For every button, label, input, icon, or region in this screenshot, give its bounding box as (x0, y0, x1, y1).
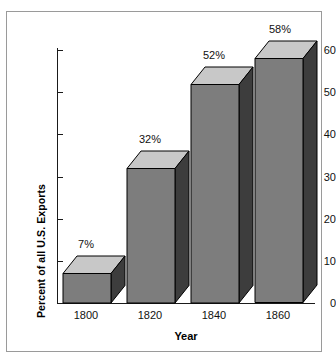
chart-page: 60 50 40 30 20 10 0 7% (0, 0, 336, 362)
bar-value-label-1820: 32% (120, 133, 180, 145)
x-axis-title: Year (57, 330, 315, 342)
bar-value-label-1840: 52% (184, 49, 244, 61)
y-tick-50 (57, 92, 63, 93)
y-tick-40 (57, 134, 63, 135)
plot-area: 60 50 40 30 20 10 0 7% (0, 0, 336, 362)
bar-value-label-1860: 58% (250, 23, 310, 35)
y-tick-30 (57, 177, 63, 178)
y-axis-title-wrap: Percent of all U.S. Exports (12, 95, 36, 245)
x-tick-label-1860: 1860 (248, 309, 308, 321)
x-tick-label-1800: 1800 (56, 309, 116, 321)
y-axis-title: Percent of all U.S. Exports (35, 176, 47, 326)
y-tick-20 (57, 219, 63, 220)
x-tick-label-1820: 1820 (120, 309, 180, 321)
bar-1860-shape (255, 41, 335, 309)
y-tick-60 (57, 50, 63, 51)
y-axis-line (57, 48, 58, 304)
bar-value-label-1800: 7% (56, 238, 116, 250)
x-tick-label-1840: 1840 (184, 309, 244, 321)
